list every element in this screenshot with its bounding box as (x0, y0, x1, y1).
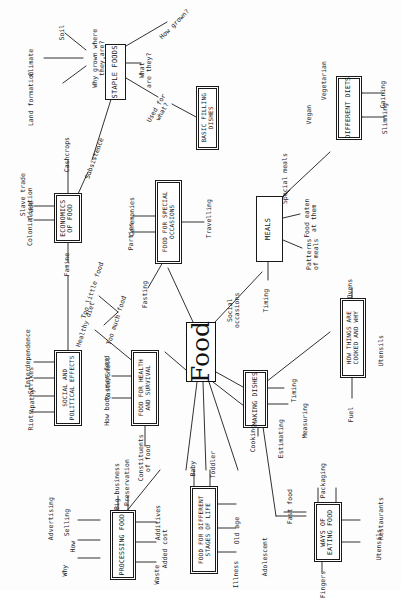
box-meals-label: MEALS (266, 218, 274, 240)
leaf-fuel-label: Fuel (348, 398, 355, 430)
leaf-timing-meals-label: Timing (263, 281, 270, 319)
leaf-climate[interactable]: Climate (12, 44, 52, 66)
leaf-famine[interactable]: Famine (48, 246, 88, 268)
leaf-strikes[interactable]: Strikes (12, 362, 52, 384)
leaf-additives[interactable]: Additives (136, 504, 182, 526)
leaf-fuel[interactable]: Fuel (336, 396, 368, 418)
leaf-special-meals-label: Special meals (282, 150, 289, 206)
leaf-utensils-eating[interactable]: Utensils (358, 526, 401, 548)
leaf-cooking-label: Cooking (250, 418, 257, 458)
leaf-special-meals[interactable]: Special meals (258, 160, 314, 182)
leaf-adolescent-label: Adolescent (262, 530, 269, 582)
leaf-fasting[interactable]: Fasting (126, 276, 166, 298)
leaf-added-cost[interactable]: Added cost (142, 530, 190, 552)
leaf-illness-label: Illness (233, 555, 240, 593)
leaf-patterns-of-meals-label: Patterns of meals (306, 233, 321, 275)
box-different-diets-label: DIFFERENT DIETS (345, 77, 352, 139)
leaf-what-are-they[interactable]: What are they? (126, 48, 166, 77)
leaf-old-age[interactable]: Old age (218, 512, 258, 534)
box-ways-of-eating-food[interactable]: WAYS OF EATING FOOD (316, 504, 340, 560)
leaf-subsistence[interactable]: Subsistence (70, 140, 120, 162)
box-basic-filling-dishes-label: BASIC FILLING DISHES (201, 93, 214, 143)
leaf-patterns-of-meals[interactable]: Patterns of meals (292, 232, 334, 261)
center-node-food[interactable]: Food (186, 322, 216, 382)
box-food-for-different-stages-of-life-label: FOOD FOR DIFFERENT STAGES OF LIFE (197, 496, 210, 565)
leaf-social-occasions[interactable]: Social occasions (212, 288, 256, 317)
leaf-measuring-label: Measuring (302, 396, 309, 444)
leaf-packaging-label: Packaging (320, 456, 327, 504)
box-processing-food[interactable]: PROCESSING FOOD (112, 512, 134, 578)
leaf-toddler-label: Toddler (210, 444, 217, 484)
leaf-preservation-label: Preservation (124, 454, 131, 510)
leaf-apathy[interactable]: Apathy (14, 382, 52, 404)
leaf-ovens[interactable]: Ovens (332, 270, 370, 292)
box-food-for-special-occasions[interactable]: FOOD FOR SPECIAL OCCASIONS (157, 182, 180, 262)
leaf-waste[interactable]: Waste (140, 556, 176, 578)
leaf-slimming-label: Slimming (382, 96, 389, 140)
leaf-colonialisation-label: Colonialisation (27, 183, 34, 249)
leaf-vegan-label: Vegan (306, 94, 313, 134)
leaf-gaining[interactable]: Gaining (364, 76, 401, 98)
leaf-why-processing-label: Why (62, 554, 69, 586)
leaf-why-grown-where-they-are-label: Why grown where they are? (92, 27, 107, 89)
box-food-for-different-stages-of-life[interactable]: FOOD FOR DIFFERENT STAGES OF LIFE (192, 488, 216, 572)
leaf-utensils-eating-label: Utensils (376, 522, 383, 566)
leaf-fingers-label: Fingers (320, 564, 327, 602)
leaf-preservation[interactable]: Preservation (100, 464, 156, 486)
leaf-parties-label: Parties (128, 216, 135, 256)
leaf-toddler[interactable]: Toddler (194, 446, 234, 468)
leaf-how-body-uses-food[interactable]: How body uses food (68, 372, 148, 394)
leaf-ovens-label: Ovens (347, 269, 354, 307)
leaf-fingers[interactable]: Fingers (304, 566, 344, 588)
leaf-soil-label: Soil (59, 17, 66, 47)
leaf-fast-food[interactable]: Fast food (268, 488, 314, 510)
leaf-restaurants[interactable]: Restaurants (356, 500, 401, 522)
leaf-selling[interactable]: Selling (48, 504, 88, 526)
leaf-how-processing[interactable]: How (58, 528, 90, 550)
box-food-for-special-occasions-label: FOOD FOR SPECIAL OCCASIONS (162, 192, 175, 253)
leaf-riots[interactable]: Riots (14, 402, 50, 424)
leaf-why-grown-where-they-are[interactable]: Why grown where they are? (68, 36, 130, 65)
leaf-adolescent[interactable]: Adolescent (240, 538, 292, 560)
leaf-fast-food-label: Fast food (287, 483, 294, 529)
leaf-travelling[interactable]: Travelling (186, 200, 234, 222)
leaf-social-occasions-label: Social occasions (227, 288, 242, 332)
leaf-why-processing[interactable]: Why (50, 552, 82, 574)
leaf-land-formation[interactable]: Land formation (2, 80, 62, 102)
leaf-used-for-what[interactable]: Used for what? (140, 88, 180, 117)
leaf-timing-dishes-label: Timing (291, 371, 298, 409)
leaf-how-body-uses-food-label: How body uses food (104, 350, 111, 430)
leaf-food-eaten-at-them[interactable]: Food eaten at them (290, 196, 332, 225)
leaf-land-formation-label: Land formation (28, 68, 35, 128)
leaf-utensils-cooked-label: Utensils (378, 330, 385, 370)
leaf-riots-label: Riots (28, 402, 35, 438)
leaf-waste-label: Waste (154, 556, 161, 592)
leaf-parties[interactable]: Parties (112, 218, 152, 240)
leaf-colonialisation[interactable]: Colonialisation (0, 198, 64, 220)
box-different-diets[interactable]: DIFFERENT DIETS (338, 78, 360, 138)
leaf-how-grown[interactable]: How grown? (152, 6, 198, 28)
leaf-interdependence[interactable]: Interdependence (0, 340, 64, 362)
leaf-soil[interactable]: Soil (48, 14, 78, 36)
leaf-timing-dishes[interactable]: Timing (276, 372, 314, 394)
box-meals[interactable]: MEALS (256, 196, 283, 262)
leaf-healthy-diet[interactable]: Healthy diet (58, 306, 114, 328)
box-how-things-are-cooked-and-why[interactable]: HOW THINGS ARE COOKED AND WHY (342, 300, 364, 376)
leaf-utensils-cooked[interactable]: Utensils (362, 332, 401, 354)
box-basic-filling-dishes[interactable]: BASIC FILLING DISHES (198, 88, 217, 148)
box-how-things-are-cooked-and-why-label: HOW THINGS ARE COOKED AND WHY (346, 311, 359, 364)
leaf-what-are-they-label: What are they? (139, 50, 154, 90)
leaf-too-little-food[interactable]: Too little food (62, 272, 124, 294)
box-processing-food-label: PROCESSING FOOD (119, 514, 126, 576)
leaf-vegan[interactable]: Vegan (290, 96, 330, 118)
leaf-packaging[interactable]: Packaging (300, 462, 348, 484)
center-node-label: Food (187, 321, 215, 383)
leaf-travelling-label: Travelling (206, 194, 213, 242)
leaf-vegetarian[interactable]: Vegetarian (300, 62, 350, 84)
box-ways-of-eating-food-label: WAYS OF EATING FOOD (321, 509, 336, 554)
leaf-measuring[interactable]: Measuring (282, 402, 330, 424)
leaf-slimming[interactable]: Slimming (364, 100, 401, 122)
